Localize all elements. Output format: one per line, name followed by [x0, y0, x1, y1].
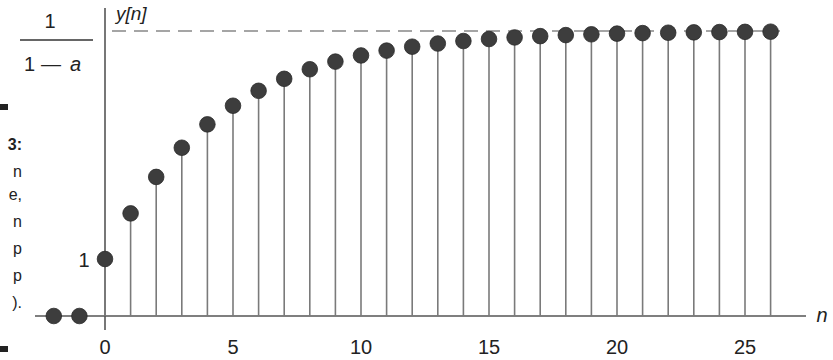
data-point-marker	[584, 27, 600, 43]
stem-plot: 1 1 — a y[n] 1 n 0510152025	[0, 0, 833, 360]
y-tick-1: 1	[78, 249, 89, 271]
data-point-marker	[225, 98, 241, 114]
data-point-marker	[123, 206, 139, 222]
data-point-marker	[481, 31, 497, 47]
stems	[105, 32, 771, 316]
data-point-marker	[72, 308, 88, 324]
asymptote-denominator-minus: —	[41, 53, 61, 75]
x-axis-label: n	[816, 304, 827, 326]
data-point-marker	[353, 48, 369, 64]
data-point-marker	[635, 25, 651, 41]
y-axis-label: y[n]	[114, 3, 147, 24]
data-point-marker	[379, 43, 395, 59]
x-tick-labels: 0510152025	[99, 336, 756, 358]
asymptote-numerator: 1	[44, 10, 55, 32]
x-tick-label: 20	[606, 336, 628, 358]
data-point-marker	[456, 33, 472, 49]
data-point-marker	[609, 26, 625, 42]
x-tick-label: 0	[99, 336, 110, 358]
data-point-marker	[328, 54, 344, 70]
data-point-marker	[148, 169, 164, 185]
data-point-marker	[97, 251, 113, 267]
data-point-marker	[660, 25, 676, 41]
data-point-marker	[430, 36, 446, 52]
data-point-marker	[251, 83, 267, 99]
data-point-marker	[558, 27, 574, 43]
data-point-marker	[46, 308, 62, 324]
data-point-marker	[200, 117, 216, 133]
x-tick-label: 5	[227, 336, 238, 358]
data-point-marker	[404, 39, 420, 55]
data-point-marker	[712, 24, 728, 40]
x-tick-label: 10	[350, 336, 372, 358]
data-point-marker	[686, 25, 702, 41]
x-tick-label: 25	[734, 336, 756, 358]
data-point-marker	[532, 28, 548, 44]
data-point-marker	[737, 24, 753, 40]
asymptote-denominator-a: a	[70, 53, 81, 75]
x-tick-label: 15	[478, 336, 500, 358]
data-point-marker	[174, 140, 190, 156]
asymptote-denominator-one: 1	[24, 53, 35, 75]
data-point-marker	[276, 71, 292, 87]
data-point-marker	[763, 24, 779, 40]
data-point-marker	[302, 61, 318, 77]
data-point-marker	[507, 30, 523, 46]
